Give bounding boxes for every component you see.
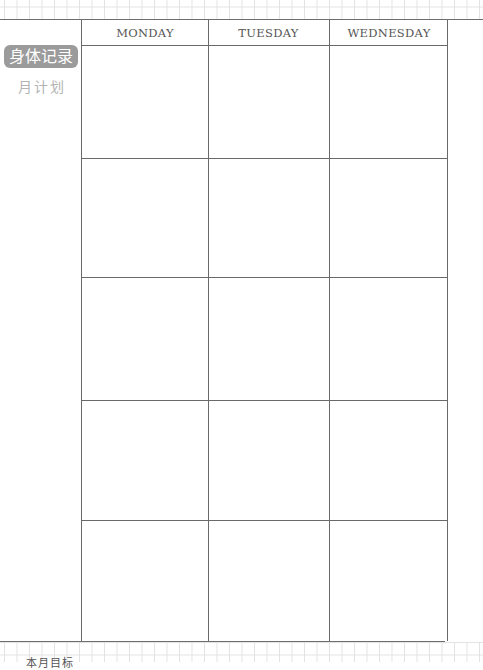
day-header-tuesday: TUESDAY	[208, 20, 329, 45]
calendar-cell-r3-mon[interactable]	[82, 278, 208, 400]
calendar-cell-r5-mon[interactable]	[82, 521, 208, 641]
calendar-cell-r2-tue[interactable]	[209, 159, 329, 277]
calendar-cell-r3-wed[interactable]	[330, 278, 448, 400]
calendar-cell-r3-tue[interactable]	[209, 278, 329, 400]
calendar-cell-r1-wed[interactable]	[330, 46, 448, 158]
calendar-cell-r2-mon[interactable]	[82, 159, 208, 277]
day-header-wednesday: WEDNESDAY	[330, 20, 448, 45]
section-badge: 身体记录	[4, 45, 78, 68]
calendar-cell-r5-tue[interactable]	[209, 521, 329, 641]
day-header-monday: MONDAY	[82, 20, 208, 45]
section-subtitle: 月计划	[14, 76, 70, 96]
calendar-cell-r5-wed[interactable]	[330, 521, 448, 641]
calendar-cell-r4-tue[interactable]	[209, 401, 329, 520]
calendar-cell-r4-mon[interactable]	[82, 401, 208, 520]
grid-paper-top	[0, 0, 483, 19]
weekly-calendar-table: MONDAY TUESDAY WEDNESDAY	[81, 20, 448, 641]
calendar-cell-r1-tue[interactable]	[209, 46, 329, 158]
sidebar	[0, 20, 81, 641]
calendar-cell-r2-wed[interactable]	[330, 159, 448, 277]
calendar-cell-r1-mon[interactable]	[82, 46, 208, 158]
monthly-goal-label: 本月目标	[26, 654, 74, 670]
calendar-cell-r4-wed[interactable]	[330, 401, 448, 520]
